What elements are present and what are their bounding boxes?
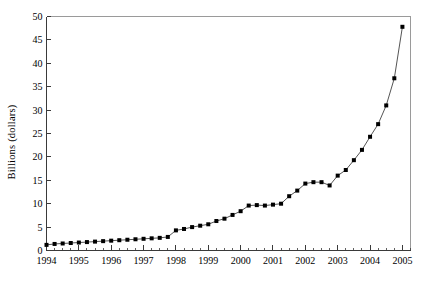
data-point-marker [287,194,291,198]
series-line [47,27,403,245]
data-point-marker [125,238,129,242]
data-series [45,25,405,247]
x-axis-ticks: 1994199519961997199819992000200120022003… [37,245,413,266]
data-point-marker [368,135,372,139]
x-tick-label: 2005 [392,255,412,266]
data-point-marker [190,225,194,229]
data-point-marker [101,239,105,243]
chart-figure: Billions (dollars) 199419951996199719981… [0,0,427,284]
data-point-marker [239,209,243,213]
data-point-marker [271,203,275,207]
x-tick-label: 2003 [328,255,348,266]
data-point-marker [392,76,396,80]
data-point-marker [263,204,267,208]
data-point-marker [93,240,97,244]
data-point-marker [85,240,89,244]
data-point-marker [133,237,137,241]
y-tick-label: 35 [33,81,43,92]
data-point-marker [142,237,146,241]
data-point-marker [45,243,49,247]
data-point-marker [376,122,380,126]
x-tick-label: 2002 [295,255,315,266]
data-point-marker [222,217,226,221]
x-tick-label: 1999 [198,255,218,266]
data-point-marker [360,148,364,152]
data-point-marker [352,158,356,162]
data-point-marker [174,228,178,232]
data-point-marker [336,174,340,178]
y-axis-ticks: 05101520253035404550 [33,11,51,256]
data-point-marker [247,204,251,208]
x-tick-label: 1994 [37,255,57,266]
data-point-marker [214,219,218,223]
x-tick-label: 1996 [101,255,121,266]
x-tick-label: 2000 [231,255,251,266]
data-point-marker [255,203,259,207]
x-tick-label: 2004 [360,255,380,266]
data-point-marker [320,180,324,184]
data-point-marker [117,238,121,242]
y-tick-label: 45 [33,34,43,45]
data-point-marker [61,241,65,245]
data-point-marker [328,183,332,187]
data-point-marker [231,213,235,217]
data-point-marker [295,189,299,193]
data-point-marker [158,236,162,240]
x-tick-label: 2001 [263,255,283,266]
data-point-marker [53,242,57,246]
data-point-marker [69,241,73,245]
y-tick-label: 25 [33,128,43,139]
data-point-marker [303,182,307,186]
data-point-marker [279,202,283,206]
y-tick-label: 20 [33,151,43,162]
data-point-marker [166,235,170,239]
data-point-marker [344,168,348,172]
data-point-marker [77,241,81,245]
x-tick-label: 1998 [166,255,186,266]
y-tick-label: 0 [38,245,43,256]
data-point-marker [182,227,186,231]
data-point-marker [198,224,202,228]
y-tick-label: 5 [38,222,43,233]
x-tick-label: 1995 [69,255,89,266]
data-point-marker [109,239,113,243]
data-point-marker [150,236,154,240]
data-point-marker [206,222,210,226]
chart-plot-area: 1994199519961997199819992000200120022003… [0,0,427,284]
y-tick-label: 50 [33,11,43,22]
plot-frame [47,17,411,251]
data-point-marker [400,25,404,29]
y-tick-label: 30 [33,105,43,116]
x-tick-label: 1997 [134,255,154,266]
data-point-marker [384,103,388,107]
y-tick-label: 15 [33,175,43,186]
y-tick-label: 40 [33,58,43,69]
y-tick-label: 10 [33,198,43,209]
data-point-marker [311,180,315,184]
